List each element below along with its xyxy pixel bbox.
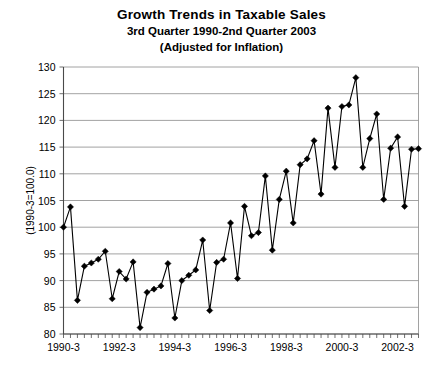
data-point-marker — [346, 102, 352, 108]
data-point-marker — [130, 259, 136, 265]
data-series — [64, 78, 419, 328]
y-tick-label: 120 — [38, 114, 56, 126]
x-tick-label: 2002-3 — [381, 341, 414, 353]
data-point-marker — [325, 105, 331, 111]
chart-canvas: 80859095100105110115120125130 1990-31992… — [0, 0, 443, 375]
data-point-marker — [227, 220, 233, 226]
data-point-marker — [67, 204, 73, 210]
data-point-marker — [255, 229, 261, 235]
data-point-marker — [81, 263, 87, 269]
y-axis-tick-labels: 80859095100105110115120125130 — [38, 61, 56, 340]
data-point-marker — [200, 237, 206, 243]
data-point-marker — [269, 247, 275, 253]
y-axis-title-text: (1990-3=100.0) — [25, 166, 36, 235]
y-tick-label: 95 — [44, 248, 56, 260]
x-axis-tick-labels: 1990-31992-31994-31996-31998-32000-32002… — [47, 341, 414, 353]
data-point-marker — [214, 259, 220, 265]
y-tick-label: 110 — [39, 168, 56, 180]
data-point-marker — [415, 146, 421, 152]
data-point-marker — [367, 135, 373, 141]
y-tick-label: 115 — [39, 141, 56, 153]
data-point-marker — [88, 260, 94, 266]
data-point-marker — [165, 260, 171, 266]
data-point-marker — [283, 168, 289, 174]
data-point-marker — [388, 145, 394, 151]
data-point-marker — [381, 196, 387, 202]
data-point-marker — [60, 224, 66, 230]
data-point-marker — [401, 203, 407, 209]
x-tick-label: 2000-3 — [326, 341, 359, 353]
data-point-marker — [137, 324, 143, 330]
data-point-marker — [172, 315, 178, 321]
x-tick-label: 1990-3 — [47, 341, 80, 353]
data-point-marker — [158, 283, 164, 289]
data-point-marker — [241, 203, 247, 209]
y-axis-title: (1990-3=100.0) — [25, 166, 36, 235]
data-point-marker — [151, 286, 157, 292]
data-point-marker — [109, 296, 115, 302]
y-tick-label: 90 — [44, 275, 56, 287]
data-point-marker — [276, 196, 282, 202]
data-point-marker — [207, 307, 213, 313]
data-point-marker — [290, 220, 296, 226]
y-tick-label: 80 — [44, 328, 56, 340]
data-point-marker — [74, 297, 80, 303]
data-point-marker — [353, 75, 359, 81]
data-point-marker — [374, 111, 380, 117]
x-tick-label: 1992-3 — [103, 341, 136, 353]
x-tick-label: 1998-3 — [270, 341, 303, 353]
y-tick-label: 125 — [38, 88, 56, 100]
gridlines — [64, 67, 419, 334]
data-point-marker — [221, 256, 227, 262]
data-point-marker — [360, 164, 366, 170]
x-tick-label: 1994-3 — [159, 341, 192, 353]
data-point-marker — [144, 289, 150, 295]
series-polyline — [64, 78, 419, 328]
data-point-marker — [248, 233, 254, 239]
y-tick-label: 85 — [44, 301, 56, 313]
data-point-marker — [395, 134, 401, 140]
chart-page: Growth Trends in Taxable Sales 3rd Quart… — [0, 0, 443, 375]
data-point-marker — [339, 103, 345, 109]
x-tick-label: 1996-3 — [214, 341, 247, 353]
data-point-markers — [60, 75, 421, 331]
y-tick-label: 130 — [38, 61, 56, 73]
data-point-marker — [311, 138, 317, 144]
y-tick-label: 105 — [38, 195, 56, 207]
data-point-marker — [318, 191, 324, 197]
y-tick-label: 100 — [38, 221, 56, 233]
data-point-marker — [332, 164, 338, 170]
x-axis-tickmarks — [64, 334, 419, 338]
